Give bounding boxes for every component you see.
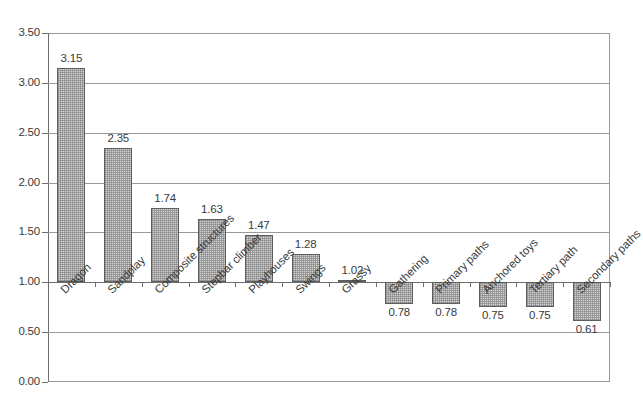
x-tick-mark	[516, 282, 517, 287]
y-tick-label: 2.00	[0, 177, 40, 189]
x-tick-mark	[142, 282, 143, 287]
x-tick-mark	[48, 282, 49, 287]
gridline	[48, 332, 610, 333]
y-tick-label: 3.50	[0, 27, 40, 39]
y-tick-label: 0.50	[0, 326, 40, 338]
y-tick-mark	[42, 133, 48, 134]
gridline	[48, 183, 610, 184]
bar-value-label: 3.15	[49, 53, 93, 65]
bar	[57, 68, 85, 282]
y-axis-line	[48, 33, 49, 382]
bar-value-label: 0.78	[424, 307, 468, 319]
x-tick-mark	[329, 282, 330, 287]
x-tick-mark	[470, 282, 471, 287]
gridline	[48, 232, 610, 233]
y-tick-mark	[42, 33, 48, 34]
bar	[104, 148, 132, 283]
y-tick-label: 3.00	[0, 77, 40, 89]
y-tick-label: 0.00	[0, 376, 40, 388]
x-tick-mark	[376, 282, 377, 287]
bar-value-label: 0.61	[565, 324, 609, 336]
bar-value-label: 0.78	[377, 307, 421, 319]
y-tick-mark	[42, 83, 48, 84]
bar-value-label: 1.47	[237, 220, 281, 232]
bar-value-label: 0.75	[471, 310, 515, 322]
y-tick-mark	[42, 232, 48, 233]
x-tick-mark	[95, 282, 96, 287]
gridline	[48, 83, 610, 84]
y-tick-label: 2.50	[0, 127, 40, 139]
bar-value-label: 0.75	[518, 310, 562, 322]
x-tick-mark	[282, 282, 283, 287]
y-tick-mark	[42, 183, 48, 184]
x-tick-mark	[235, 282, 236, 287]
y-tick-label: 1.00	[0, 276, 40, 288]
x-tick-mark	[423, 282, 424, 287]
plot-area	[48, 33, 610, 382]
bar-value-label: 1.74	[143, 193, 187, 205]
bar-value-label: 2.35	[96, 133, 140, 145]
y-tick-mark	[42, 332, 48, 333]
x-tick-mark	[563, 282, 564, 287]
y-tick-mark	[42, 382, 48, 383]
y-tick-label: 1.50	[0, 226, 40, 238]
x-tick-mark	[189, 282, 190, 287]
x-tick-mark	[610, 282, 611, 287]
